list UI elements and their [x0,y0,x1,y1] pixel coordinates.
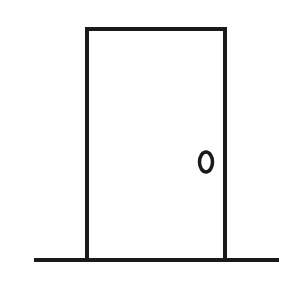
background [0,0,302,286]
door-illustration [0,0,302,286]
